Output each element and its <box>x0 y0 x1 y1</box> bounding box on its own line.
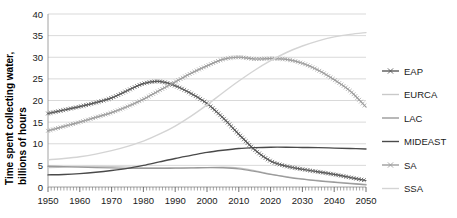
x-tick-label: 2050 <box>355 195 376 206</box>
x-tick-label: 1980 <box>133 195 154 206</box>
y-tick-label: 35 <box>32 30 43 41</box>
series-line <box>48 147 366 175</box>
y-axis-ticks: 0510152025303540 <box>32 9 43 193</box>
legend-item-eap[interactable]: EAP <box>382 66 423 77</box>
legend-item-sa[interactable]: SA <box>382 160 417 171</box>
series-marker <box>335 80 339 84</box>
y-tick-label: 0 <box>38 182 43 193</box>
y-tick-label: 10 <box>32 138 43 149</box>
legend-item-label: EAP <box>404 66 423 77</box>
x-tick-label: 2040 <box>324 195 345 206</box>
y-tick-label: 20 <box>32 95 43 106</box>
series-marker <box>340 83 344 87</box>
x-tick-label: 1950 <box>37 195 58 206</box>
data-series <box>46 33 366 185</box>
series-ssa <box>48 33 366 160</box>
y-axis-title: Time spent collecting water, billions of… <box>4 52 28 185</box>
legend-item-label: MIDEAST <box>404 136 446 147</box>
legend-item-mideast[interactable]: MIDEAST <box>382 136 446 147</box>
chart-canvas: Time spent collecting water, billions of… <box>0 0 457 218</box>
legend-item-label: SA <box>404 160 417 171</box>
y-tick-label: 5 <box>38 160 43 171</box>
series-lac <box>48 166 366 185</box>
y-tick-label: 40 <box>32 9 43 20</box>
series-line <box>48 33 366 160</box>
series-line <box>48 166 366 184</box>
x-tick-label: 1960 <box>69 195 90 206</box>
series-sa <box>46 55 366 132</box>
series-eurca <box>48 166 366 184</box>
series-mideast <box>48 147 366 175</box>
series-line <box>48 166 366 185</box>
x-tick-label: 2030 <box>292 195 313 206</box>
legend-item-label: EURCA <box>404 89 438 100</box>
series-marker <box>342 84 346 88</box>
x-tick-label: 1970 <box>101 195 122 206</box>
series-marker <box>363 104 367 108</box>
legend-item-ssa[interactable]: SSA <box>382 183 424 194</box>
x-tick-label: 1990 <box>165 195 186 206</box>
legend-item-label: SSA <box>404 183 424 194</box>
legend-item-label: LAC <box>404 113 423 124</box>
legend-item-lac[interactable]: LAC <box>382 113 423 124</box>
line-chart: Time spent collecting water, billions of… <box>0 0 457 218</box>
y-tick-label: 25 <box>32 73 43 84</box>
series-marker <box>337 81 341 85</box>
series-marker <box>261 155 265 159</box>
series-marker <box>259 153 263 157</box>
x-tick-label: 2020 <box>260 195 281 206</box>
y-axis-title-line1: Time spent collecting water, <box>4 52 15 185</box>
x-tick-label: 2000 <box>196 195 217 206</box>
chart-legend: EAPEURCALACMIDEASTSASSA <box>382 66 446 195</box>
y-tick-label: 30 <box>32 52 43 63</box>
x-axis-ticks: 1950196019701980199020002010202020302040… <box>37 187 376 206</box>
y-axis-title-line2: billions of hours <box>17 107 28 185</box>
gridlines <box>48 14 366 187</box>
y-tick-label: 15 <box>32 117 43 128</box>
legend-item-eurca[interactable]: EURCA <box>382 89 438 100</box>
x-tick-label: 2010 <box>228 195 249 206</box>
